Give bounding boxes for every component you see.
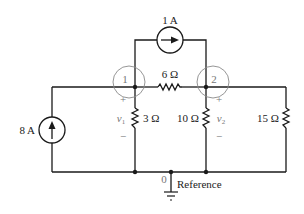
label-15ohm: 15 Ω [257,112,279,124]
node-1-label: 1 [122,73,128,85]
v1-label: v1 [117,112,126,126]
current-source-1a [157,27,183,53]
current-source-8a [39,117,65,143]
resistor-6ohm [158,84,182,90]
resistor-10ohm [203,108,209,128]
v1-minus: − [120,130,126,142]
v1-plus: + [120,93,126,105]
v2-label: v2 [217,112,226,126]
v2-subscript: 2 [222,118,226,126]
wires [52,40,286,192]
node-1-circle [113,66,145,98]
label-8a: 8 A [19,124,35,136]
ground-icon [164,192,178,200]
junction-bottom-left [133,170,137,174]
junction-dots [133,85,208,174]
circuit-diagram: 1 A 8 A 1 2 6 Ω 3 Ω 10 Ω 15 Ω + v1 − + v… [0,0,304,214]
junction-node2 [204,85,208,89]
resistor-3ohm [132,108,138,128]
label-3ohm: 3 Ω [143,112,159,124]
v2-plus: + [216,93,222,105]
ground-node-label: 0 [161,173,167,185]
wire-1a-left [135,40,157,87]
wire-1a-right [183,40,206,87]
label-6ohm: 6 Ω [162,68,178,80]
v2-minus: − [216,130,222,142]
junction-ground [169,170,173,174]
junction-node1 [133,85,137,89]
reference-label: Reference [177,178,222,190]
v1-subscript: 1 [122,118,126,126]
node-2-label: 2 [211,73,217,85]
resistor-15ohm [283,108,289,128]
label-10ohm: 10 Ω [177,112,199,124]
junction-bottom-right [204,170,208,174]
label-1a: 1 A [162,14,178,26]
